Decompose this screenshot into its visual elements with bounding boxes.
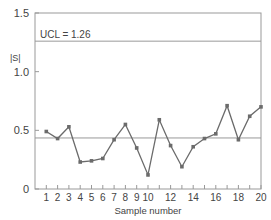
y-axis-label: |S| xyxy=(10,53,21,63)
data-point xyxy=(214,132,218,136)
x-tick-label: 4 xyxy=(77,192,83,203)
x-tick-label: 2 xyxy=(55,192,61,203)
data-point xyxy=(191,145,195,149)
x-tick-label: 5 xyxy=(89,192,95,203)
data-point xyxy=(203,137,207,141)
data-point xyxy=(101,157,105,161)
data-point xyxy=(158,118,162,122)
x-tick-label: 7 xyxy=(111,192,117,203)
data-series xyxy=(45,104,263,177)
data-point xyxy=(78,160,82,164)
data-point xyxy=(45,130,49,134)
series-line xyxy=(46,106,261,175)
y-tick-label: 0.5 xyxy=(14,124,29,136)
data-point xyxy=(67,125,71,129)
x-tick-label: 18 xyxy=(233,192,245,203)
data-point xyxy=(56,137,60,141)
data-point xyxy=(124,123,128,127)
data-point xyxy=(259,105,263,109)
data-point xyxy=(225,104,229,108)
data-point xyxy=(146,173,150,177)
ucl-label: UCL = 1.26 xyxy=(40,29,91,40)
x-tick-label: 16 xyxy=(210,192,222,203)
data-point xyxy=(112,138,116,142)
y-tick-label: 0 xyxy=(23,183,29,195)
x-tick-label: 1 xyxy=(44,192,50,203)
x-tick-label: 9 xyxy=(134,192,140,203)
data-point xyxy=(135,146,139,150)
x-tick-label: 14 xyxy=(188,192,200,203)
reference-lines xyxy=(35,41,261,138)
x-tick-label: 8 xyxy=(123,192,129,203)
x-tick-label: 3 xyxy=(66,192,72,203)
data-point xyxy=(90,159,94,163)
data-point xyxy=(180,165,184,169)
x-tick-label: 12 xyxy=(165,192,177,203)
data-point xyxy=(237,138,241,142)
data-point xyxy=(169,144,173,148)
x-tick-label: 20 xyxy=(255,192,267,203)
x-axis-label: Sample number xyxy=(114,205,181,216)
y-tick-label: 1.5 xyxy=(14,7,29,19)
control-chart: 00.51.01.5123456789101214161820 UCL = 1.… xyxy=(0,0,271,220)
x-tick-label: 6 xyxy=(100,192,106,203)
data-point xyxy=(248,114,252,118)
y-tick-label: 1.0 xyxy=(14,66,29,78)
x-tick-label: 10 xyxy=(142,192,154,203)
